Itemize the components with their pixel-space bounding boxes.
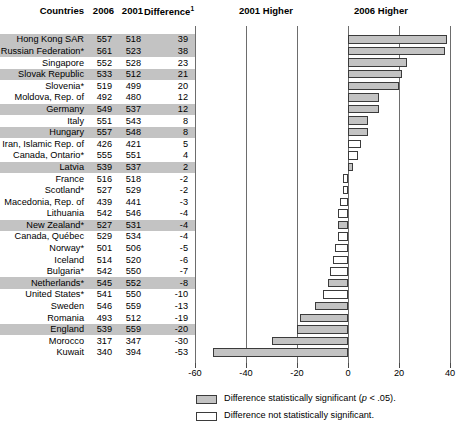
cell-2006: 542 bbox=[97, 208, 112, 219]
cell-difference: 21 bbox=[178, 69, 188, 80]
cell-country: Canada, Québec bbox=[15, 231, 84, 242]
axis-tick-label: -40 bbox=[231, 368, 261, 378]
cell-2006: 542 bbox=[97, 266, 112, 277]
cell-2001: 548 bbox=[126, 127, 141, 138]
table-row: England539559-20 bbox=[0, 324, 196, 336]
bar-row bbox=[196, 335, 458, 347]
bar bbox=[343, 186, 348, 194]
cell-country: Canada, Ontario* bbox=[13, 150, 84, 161]
cell-country: Latvia bbox=[59, 162, 84, 173]
cell-2001: 518 bbox=[126, 174, 141, 185]
cell-country: Norway* bbox=[49, 243, 84, 254]
bar bbox=[348, 105, 379, 113]
cell-2001: 546 bbox=[126, 208, 141, 219]
plot-area: 2001 Higher 2006 Higher -60-40-2002040 bbox=[196, 0, 458, 435]
cell-difference: -13 bbox=[175, 301, 188, 312]
bar bbox=[333, 256, 348, 264]
bar-row bbox=[196, 324, 458, 336]
column-header-difference: Difference1 bbox=[144, 5, 194, 17]
bar-row bbox=[196, 277, 458, 289]
bar-series bbox=[196, 34, 458, 359]
bar-row bbox=[196, 185, 458, 197]
cell-2001: 534 bbox=[126, 231, 141, 242]
cell-2006: 545 bbox=[97, 278, 112, 289]
cell-2006: 551 bbox=[97, 116, 112, 127]
cell-difference: 12 bbox=[178, 104, 188, 115]
table-row: Iceland514520-6 bbox=[0, 254, 196, 266]
cell-difference: -3 bbox=[180, 197, 188, 208]
bar bbox=[348, 116, 368, 124]
bar-row bbox=[196, 254, 458, 266]
axis-tick-label: 0 bbox=[333, 368, 363, 378]
bar bbox=[300, 314, 348, 322]
cell-country: Netherlands* bbox=[31, 278, 84, 289]
table-row: Romania493512-19 bbox=[0, 312, 196, 324]
cell-2006: 549 bbox=[97, 104, 112, 115]
cell-country: Morocco bbox=[49, 336, 84, 347]
bar bbox=[348, 140, 361, 148]
table-row: France516518-2 bbox=[0, 173, 196, 185]
bar bbox=[338, 221, 348, 229]
cell-country: Bulgaria* bbox=[47, 266, 84, 277]
cell-2006: 439 bbox=[97, 197, 112, 208]
cell-difference: -2 bbox=[180, 174, 188, 185]
cell-2001: 552 bbox=[126, 278, 141, 289]
legend-significant-tail: < .05). bbox=[367, 393, 396, 403]
column-header-2001: 2001 bbox=[122, 5, 143, 16]
bar bbox=[297, 325, 348, 333]
x-axis: -60-40-2002040 bbox=[196, 363, 458, 379]
cell-2001: 537 bbox=[126, 104, 141, 115]
bar bbox=[348, 93, 379, 101]
column-header-2006: 2006 bbox=[93, 5, 114, 16]
cell-country: Moldova, Rep. of bbox=[15, 92, 84, 103]
bar-row bbox=[196, 208, 458, 220]
cell-country: United States* bbox=[25, 289, 84, 300]
cell-difference: -7 bbox=[180, 266, 188, 277]
table-row: Lithuania542546-4 bbox=[0, 208, 196, 220]
cell-difference: 38 bbox=[178, 46, 188, 57]
table-header-row: Countries 2006 2001 Difference1 bbox=[0, 0, 196, 22]
bar bbox=[348, 47, 445, 55]
cell-difference: -20 bbox=[175, 324, 188, 335]
bar-row bbox=[196, 150, 458, 162]
cell-difference: 4 bbox=[183, 150, 188, 161]
bar-row bbox=[196, 80, 458, 92]
cell-country: Russian Federation* bbox=[1, 46, 84, 57]
cell-2001: 394 bbox=[126, 347, 141, 358]
cell-difference: 23 bbox=[178, 58, 188, 69]
bar-row bbox=[196, 57, 458, 69]
bar-row bbox=[196, 347, 458, 359]
cell-2001: 528 bbox=[126, 58, 141, 69]
cell-2006: 317 bbox=[97, 336, 112, 347]
table-row: Morocco317347-30 bbox=[0, 335, 196, 347]
cell-2001: 518 bbox=[126, 34, 141, 45]
bar-row bbox=[196, 312, 458, 324]
bar-row bbox=[196, 243, 458, 255]
bar-row bbox=[196, 173, 458, 185]
cell-country: Singapore bbox=[42, 58, 84, 69]
cell-difference: -4 bbox=[180, 231, 188, 242]
bar bbox=[328, 279, 348, 287]
band-label-2006-higher: 2006 Higher bbox=[354, 5, 408, 16]
cell-2006: 529 bbox=[97, 231, 112, 242]
bar bbox=[348, 58, 407, 66]
table-row: Slovenia*51949920 bbox=[0, 80, 196, 92]
cell-country: Germany bbox=[46, 104, 84, 115]
cell-country: Macedonia, Rep. of bbox=[4, 197, 84, 208]
cell-difference: -2 bbox=[180, 185, 188, 196]
cell-2001: 559 bbox=[126, 301, 141, 312]
cell-country: Iran, Islamic Rep. of bbox=[2, 139, 84, 150]
cell-2006: 519 bbox=[97, 81, 112, 92]
cell-country: Kuwait bbox=[56, 347, 84, 358]
column-header-difference-text: Difference bbox=[144, 6, 190, 17]
cell-difference: 5 bbox=[183, 139, 188, 150]
bar bbox=[323, 290, 349, 298]
column-header-countries: Countries bbox=[40, 5, 84, 16]
cell-2001: 559 bbox=[126, 324, 141, 335]
legend: Difference statistically significant (p … bbox=[196, 392, 458, 426]
cell-2001: 550 bbox=[126, 289, 141, 300]
table-row: Norway*501506-5 bbox=[0, 243, 196, 255]
bar bbox=[348, 82, 399, 90]
cell-country: Romania bbox=[47, 313, 84, 324]
axis-tick-label: 40 bbox=[435, 368, 458, 378]
